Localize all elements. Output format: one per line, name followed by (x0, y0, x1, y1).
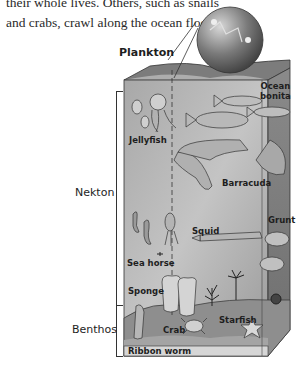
ocean-bonita-label-line1: Ocean (260, 81, 291, 91)
ocean-bonita-label: Ocean bonita (260, 81, 291, 101)
sea-horse-label: Sea horse (127, 258, 175, 268)
ribbon-worm-label: Ribbon worm (128, 346, 191, 356)
jellyfish-label: Jellyfish (129, 135, 167, 145)
benthos-bracket (116, 305, 123, 357)
squid-label: Squid (192, 226, 219, 236)
benthos-label: Benthos (72, 323, 117, 336)
grunt-label: Grunt (268, 215, 295, 225)
ocean-bonita-label-line2: bonita (260, 91, 291, 101)
nekton-label: Nekton (75, 186, 114, 199)
crab-label: Crab (163, 325, 185, 335)
nekton-bracket (116, 91, 123, 306)
sponge-label: Sponge (128, 286, 164, 296)
starfish-label: Starfish (219, 315, 257, 325)
plankton-label: Plankton (119, 46, 174, 59)
barracuda-label: Barracuda (222, 178, 271, 188)
sea-urchin (271, 294, 281, 304)
